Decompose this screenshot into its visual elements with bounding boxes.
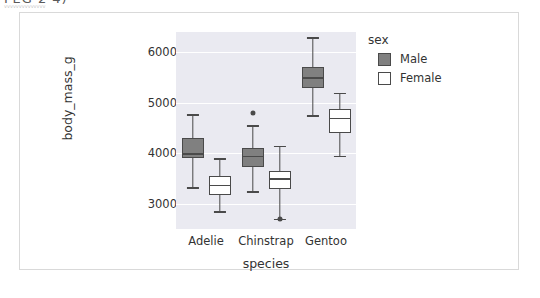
x-axis-label: species xyxy=(176,256,356,271)
boxplot-figure: body_mass_g species 3000400050006000 Ade… xyxy=(20,13,518,269)
box-median-line xyxy=(182,153,204,155)
y-tick-label: 5000 xyxy=(148,96,177,110)
box-whisker-upper xyxy=(219,158,220,176)
plot-area xyxy=(176,32,356,229)
box-cap-upper xyxy=(246,125,258,127)
box-cap-lower xyxy=(306,115,318,117)
box-whisker-lower xyxy=(252,167,253,191)
clipped-header-strip: FEG 2 4) vvvvvvvvvvvvvv xyxy=(0,0,540,10)
box-cap-upper xyxy=(273,146,285,148)
box-median-line xyxy=(329,118,351,120)
legend-swatch-icon xyxy=(378,72,391,85)
legend-item[interactable]: Female xyxy=(378,71,498,85)
box-cap-lower xyxy=(186,187,198,189)
box-whisker-upper xyxy=(312,37,313,67)
legend-item-label: Female xyxy=(400,71,442,85)
box-whisker-lower xyxy=(192,158,193,187)
x-tick-label: Adelie xyxy=(188,234,224,248)
box-median-line xyxy=(209,185,231,187)
box-whisker-upper xyxy=(339,93,340,109)
box-whisker-lower xyxy=(279,189,280,219)
box-cap-upper xyxy=(333,93,345,95)
clipped-header-subtext: vvvvvvvvvvvvvv xyxy=(4,3,45,9)
box-cap-lower xyxy=(246,191,258,193)
gridline xyxy=(176,103,356,104)
legend-swatch-icon xyxy=(378,53,391,66)
box-cap-lower xyxy=(333,156,345,158)
box-whisker-lower xyxy=(312,88,313,116)
gridline xyxy=(176,52,356,53)
y-tick-label: 3000 xyxy=(148,197,177,211)
box-outlier-point xyxy=(250,110,255,115)
x-tick-label: Chinstrap xyxy=(238,234,293,248)
box-cap-upper xyxy=(186,114,198,116)
legend-item-label: Male xyxy=(400,52,427,66)
legend-title: sex xyxy=(368,33,498,47)
gridline xyxy=(176,204,356,205)
box-median-line xyxy=(269,178,291,180)
box-whisker-upper xyxy=(252,125,253,148)
box-whisker-lower xyxy=(339,133,340,156)
box-whisker-upper xyxy=(192,114,193,138)
chart-card: body_mass_g species 3000400050006000 Ade… xyxy=(19,12,519,270)
y-tick-label: 6000 xyxy=(148,45,177,59)
box-whisker-upper xyxy=(279,146,280,171)
box-rect xyxy=(329,109,351,133)
legend-entries: MaleFemale xyxy=(368,52,498,85)
box-rect xyxy=(242,148,264,167)
box-median-line xyxy=(302,77,324,79)
box-outlier-point xyxy=(277,216,282,221)
box-cap-upper xyxy=(306,37,318,39)
box-whisker-lower xyxy=(219,195,220,211)
legend: sex MaleFemale xyxy=(368,33,498,90)
box-cap-upper xyxy=(213,158,225,160)
y-axis-label: body_mass_g xyxy=(60,14,75,184)
box-rect xyxy=(182,138,204,158)
box-cap-lower xyxy=(213,211,225,213)
box-median-line xyxy=(242,156,264,158)
legend-item[interactable]: Male xyxy=(378,52,498,66)
y-tick-label: 4000 xyxy=(148,146,177,160)
x-tick-label: Gentoo xyxy=(305,234,347,248)
